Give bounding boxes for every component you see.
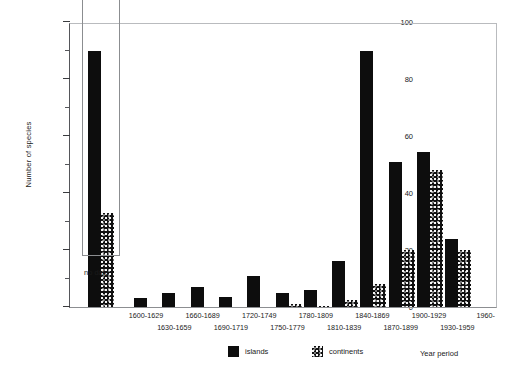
bar-islands-1750-1779 — [276, 293, 289, 307]
bar-islands-1720-1749 — [247, 276, 260, 307]
bar-islands-1600-1629 — [134, 298, 147, 307]
x-tick-label-1780-1809: 1780-1809 — [299, 311, 333, 320]
y-tick-major — [63, 249, 70, 250]
no-date-label: no date — [84, 268, 109, 277]
bar-islands-1780-1809 — [304, 290, 317, 307]
bar-islands-1810-1839 — [332, 261, 345, 307]
bar-islands-1930-1959 — [445, 239, 458, 307]
bar-continents-1810-1839 — [345, 300, 358, 307]
bar-islands-1900-1929 — [417, 152, 430, 307]
legend-swatch-continents-icon — [312, 346, 323, 357]
x-tick-label-1600-1629: 1600-1629 — [129, 311, 163, 320]
y-axis-title: Number of species — [24, 95, 33, 215]
y-tick-major — [63, 192, 70, 193]
legend-item-continents: continents — [312, 346, 363, 357]
bar-continents-1750-1779 — [289, 304, 302, 307]
x-tick-label-1900-1929: 1900-1929 — [412, 311, 446, 320]
bar-continents-1780-1809 — [317, 306, 330, 307]
chart-figure: Number of species 100 80 60 40 20 0 no d… — [0, 0, 519, 376]
bar-continents-1870-1899 — [402, 250, 415, 307]
x-tick-label-1750-1779: 1750-1779 — [270, 323, 304, 332]
bar-continents-1900-1929 — [430, 170, 443, 307]
y-tick-major — [63, 135, 70, 136]
bar-islands-1630-1659 — [162, 293, 175, 307]
bar-islands-1690-1719 — [219, 297, 232, 307]
legend-label-continents: continents — [329, 347, 363, 356]
bar-series-container — [70, 24, 496, 307]
x-axis-tick-labels: 1600-16291630-16591660-16891690-17191720… — [0, 311, 519, 341]
y-tick-major — [63, 21, 70, 22]
bar-continents-1930-1959 — [458, 250, 471, 307]
legend-item-islands: islands — [228, 346, 268, 357]
x-tick-label-1660-1689: 1660-1689 — [185, 311, 219, 320]
legend-label-islands: islands — [245, 347, 268, 356]
x-tick-label-1930-1959: 1930-1959 — [440, 323, 474, 332]
x-tick-label-1810-1839: 1810-1839 — [327, 323, 361, 332]
bar-continents-1840-1869 — [373, 284, 386, 307]
x-tick-label-1630-1659: 1630-1659 — [157, 323, 191, 332]
y-tick-major — [63, 78, 70, 79]
no-date-inset-box — [82, 0, 120, 256]
x-tick-label-1840-1869: 1840-1869 — [355, 311, 389, 320]
y-tick-major — [63, 306, 70, 307]
legend-swatch-islands-icon — [228, 346, 239, 357]
x-axis-title: Year period — [420, 349, 458, 358]
bar-islands-1840-1869 — [360, 51, 373, 308]
x-tick-label-1870-1899: 1870-1899 — [384, 323, 418, 332]
x-tick-label-1960-: 1960- — [476, 311, 494, 320]
plot-area: no date — [69, 23, 497, 308]
bar-islands-1870-1899 — [389, 162, 402, 307]
x-tick-label-1720-1749: 1720-1749 — [242, 311, 276, 320]
chart-legend: islands continents Year period — [0, 344, 519, 364]
bar-islands-1660-1689 — [191, 287, 204, 307]
x-tick-label-1690-1719: 1690-1719 — [214, 323, 248, 332]
